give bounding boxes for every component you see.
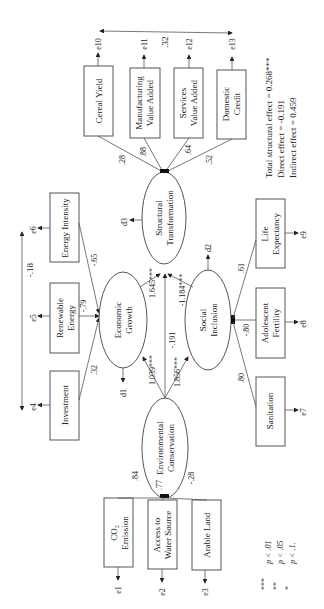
svg-text:p < .05: p < .05 (276, 541, 285, 565)
svg-text:Sanitation: Sanitation (265, 392, 275, 429)
latent-structural-transformation: Structural Transformation d3 (120, 169, 186, 264)
svg-text:Renewable: Renewable (55, 298, 65, 338)
svg-text:e8: e8 (299, 320, 308, 328)
svg-text:-.79: -.79 (79, 300, 88, 313)
svg-text:e4: e4 (29, 403, 38, 411)
svg-text:-.191: -.191 (168, 332, 177, 349)
svg-text:Expectancy: Expectancy (271, 213, 281, 255)
svg-text:Cereal Yield: Cereal Yield (94, 78, 104, 123)
svg-text:1.645***: 1.645*** (148, 268, 157, 298)
svg-text:-1.184***: -1.184*** (178, 274, 187, 307)
svg-text:*: * (284, 586, 293, 590)
indicator-manufacturing: Manufacturing Value Added e11 (130, 38, 160, 138)
indicator-services: Services Value Added e12 (174, 38, 203, 138)
indicator-energy-intensity: Energy Intensity e6 (29, 193, 79, 262)
svg-text:.88: .88 (139, 147, 148, 157)
svg-text:Life: Life (260, 227, 270, 242)
svg-text:Environmental: Environmental (155, 421, 165, 475)
indicator-investment: Investment e4 (29, 371, 79, 440)
svg-text:.80: .80 (237, 373, 246, 383)
svg-text:Inclusion: Inclusion (209, 303, 219, 337)
svg-text:-.28: -.28 (187, 472, 196, 485)
svg-text:d1: d1 (119, 389, 128, 397)
indicator-renewable-energy: Renewable Energy e5 (29, 283, 79, 353)
svg-text:d2: d2 (204, 244, 213, 252)
latent-economic-growth: Economic Growth d1 (99, 272, 147, 397)
svg-text:CO₂: CO₂ (109, 525, 119, 541)
svg-text:Manufacturing: Manufacturing (134, 76, 144, 130)
svg-text:-.80: -.80 (242, 324, 251, 337)
svg-text:e2: e2 (158, 588, 167, 596)
indicator-cereal-yield: Cereal Yield e10 (84, 38, 113, 136)
svg-text:.61: .61 (237, 263, 246, 273)
indicator-adolescent-fertility: Adolescent Fertility e8 (256, 288, 308, 358)
indicator-co2-emission: CO₂ Emission e1 (104, 498, 133, 594)
svg-text:Domestic: Domestic (221, 87, 231, 122)
indirect-effect: Indirect effect = 0.459 (288, 97, 298, 178)
svg-text:Fertility: Fertility (271, 308, 281, 337)
indicator-water-source: Access to Water Source e2 (148, 500, 177, 596)
svg-text:e13: e13 (228, 38, 237, 50)
svg-text:Social: Social (198, 308, 208, 331)
svg-text:.28: .28 (118, 155, 127, 165)
indicator-sanitation: Sanitation e7 (256, 377, 308, 446)
svg-text:Services: Services (178, 87, 188, 118)
svg-text:Water Source: Water Source (163, 511, 173, 560)
svg-text:d3: d3 (120, 218, 129, 226)
sem-path-diagram: .32 Cereal Yield e10 Manufacturing Value… (0, 0, 324, 609)
effects-summary: Total structural effect = 0.268*** Direc… (264, 57, 298, 178)
svg-text:Conservation: Conservation (166, 424, 176, 472)
svg-text:Access to: Access to (152, 517, 162, 552)
svg-text:Economic: Economic (113, 302, 123, 339)
svg-text:.32: .32 (90, 365, 99, 375)
svg-text:e3: e3 (201, 588, 210, 596)
indicator-life-expectancy: Life Expectancy e9 (256, 199, 308, 268)
svg-text:e12: e12 (185, 38, 194, 50)
svg-text:.77: .77 (155, 480, 164, 490)
svg-text:Emission: Emission (120, 516, 130, 550)
svg-text:Transformation: Transformation (165, 190, 175, 246)
svg-text:p < .01: p < .01 (264, 541, 273, 565)
svg-text:e11: e11 (140, 38, 149, 49)
svg-text:e9: e9 (299, 231, 308, 239)
svg-text:1.039***: 1.039*** (148, 355, 157, 385)
svg-text:p < .1.: p < .1. (288, 543, 297, 565)
covariance-e10-e13 (100, 31, 232, 33)
svg-text:e6: e6 (29, 226, 38, 234)
svg-text:.64: .64 (184, 145, 193, 155)
latent-social-inclusion: Social Inclusion d2 (185, 244, 235, 370)
svg-text:.52: .52 (205, 155, 214, 165)
svg-text:Arable Land: Arable Land (202, 512, 212, 558)
svg-text:1.856***: 1.856*** (173, 357, 182, 387)
svg-text:Structural: Structural (154, 200, 164, 236)
indicator-domestic-credit: Domestic Credit e13 (217, 38, 246, 139)
covariance-label: .32 (160, 36, 170, 47)
svg-text:Energy: Energy (66, 305, 76, 331)
svg-text:Credit: Credit (232, 92, 242, 115)
svg-text:e5: e5 (29, 314, 38, 322)
svg-text:e10: e10 (94, 38, 103, 50)
direct-effect: Direct effect = -0.191 (276, 100, 286, 178)
svg-text:Value Added: Value Added (145, 79, 155, 126)
total-effect: Total structural effect = 0.268*** (264, 57, 274, 178)
svg-text:-.65: -.65 (90, 254, 99, 267)
svg-text:e1: e1 (114, 586, 123, 594)
svg-text:-.18: -.18 (25, 262, 35, 277)
svg-text:e7: e7 (299, 408, 308, 416)
latent-environmental-conservation: Environmental Conservation (142, 398, 188, 498)
indicator-arable-land: Arable Land e3 (192, 500, 221, 596)
svg-text:**: ** (272, 582, 281, 590)
svg-text:Adolescent: Adolescent (260, 302, 270, 343)
svg-text:Growth: Growth (124, 306, 134, 334)
diagram-canvas: .32 Cereal Yield e10 Manufacturing Value… (0, 0, 324, 609)
svg-text:Investment: Investment (60, 385, 70, 425)
svg-text:.84: .84 (131, 471, 140, 481)
svg-text:***: *** (260, 578, 269, 590)
svg-text:Value Added: Value Added (189, 79, 199, 126)
svg-text:Energy Intensity: Energy Intensity (60, 198, 70, 258)
significance-legend: *** ** * p < .01 p < .05 p < .1. (260, 541, 297, 590)
